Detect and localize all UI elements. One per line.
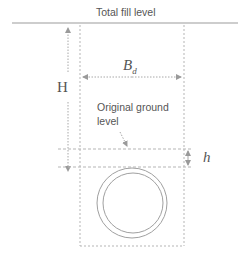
width-label-main: B (123, 57, 132, 73)
width-label: Bd (123, 57, 137, 76)
width-label-sub: d (132, 66, 137, 76)
trench-diagram (0, 0, 244, 261)
ground-level-label-line1: Original ground (97, 101, 169, 113)
total-fill-level-label: Total fill level (96, 6, 156, 18)
pipe-inner-wall (103, 173, 163, 233)
depth-label: h (203, 149, 211, 166)
pipe-outer-wall (97, 168, 167, 238)
ground-level-pointer (120, 132, 127, 146)
height-label: H (57, 79, 68, 96)
ground-level-label-line2: level (97, 115, 119, 127)
